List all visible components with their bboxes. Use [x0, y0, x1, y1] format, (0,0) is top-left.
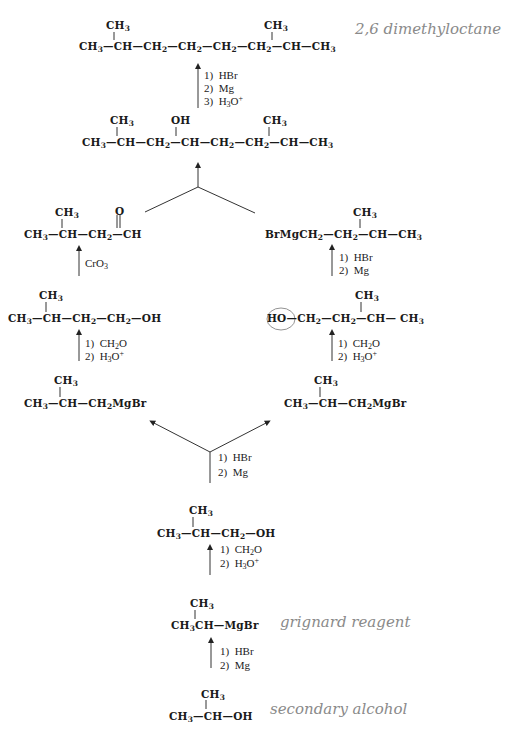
methyl-label: CH3	[54, 374, 78, 386]
grignard-chain: CH3—CH—CH2MgBr	[284, 397, 406, 409]
grignard-annotation: grignard reagent	[280, 613, 410, 631]
alcohol-chain: CH3—CH—CH2—CH2—OH	[8, 312, 161, 324]
target-annotation: 2,6 dimethyloctane	[355, 20, 501, 38]
hydroxyl-label: OH	[171, 114, 190, 126]
reagent-line: 2) Mg	[220, 659, 250, 672]
alcohol-chain: CH3—CH—OH	[169, 710, 253, 722]
reagent-line: 1) CH2O	[220, 543, 262, 556]
oxidation-reagent: CrO3	[85, 257, 108, 270]
alcohol-chain: CH3—CH—CH2—CH—CH2—CH2—CH—CH3	[82, 136, 333, 148]
alcohol-chain: CH3—CH—CH2—OH	[157, 527, 275, 539]
methyl-label: CH3	[190, 597, 214, 609]
methyl-label: CH3	[355, 289, 379, 301]
reagent-line: 2) Mg	[204, 82, 234, 95]
carbonyl-oxygen: O	[115, 205, 124, 217]
reagent-line: 1) HBr	[220, 645, 254, 658]
methyl-label: CH3	[353, 206, 377, 218]
alcohol-chain: HO—CH2—CH2—CH— CH3	[267, 312, 424, 324]
target-chain: CH3—CH—CH2—CH2—CH2—CH2—CH—CH3	[79, 40, 336, 52]
methyl-label: CH3	[263, 114, 287, 126]
methyl-label: CH3	[106, 19, 130, 31]
reagent-line: 3) H3O+	[204, 95, 243, 108]
aldehyde-chain: CH3—CH—CH2—CH	[24, 228, 142, 240]
reagent-line: 1) HBr	[204, 69, 238, 82]
methyl-label: CH3	[314, 374, 338, 386]
grignard-chain: CH3CH—MgBr	[171, 619, 259, 631]
reagent-line: 2) H3O+	[338, 350, 377, 363]
grignard-chain: BrMgCH2—CH2—CH—CH3	[265, 228, 422, 240]
reagent-line: 1) HBr	[339, 251, 373, 264]
alcohol-annotation: secondary alcohol	[270, 700, 407, 718]
methyl-label: CH3	[110, 114, 134, 126]
methyl-label: CH3	[264, 19, 288, 31]
methyl-label: CH3	[201, 688, 225, 700]
reagent-line: 2) Mg	[218, 466, 248, 479]
grignard-chain: CH3—CH—CH2MgBr	[24, 397, 146, 409]
methyl-label: CH3	[189, 504, 213, 516]
reagent-line: 2) Mg	[339, 264, 369, 277]
reagent-line: 1) HBr	[218, 451, 252, 464]
methyl-label: CH3	[55, 206, 79, 218]
reagent-line: 2) H3O+	[220, 557, 259, 570]
methyl-label: CH3	[39, 289, 63, 301]
reagent-line: 2) H3O+	[85, 350, 124, 363]
